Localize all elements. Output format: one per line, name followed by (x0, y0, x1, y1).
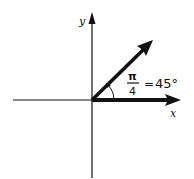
diagram-canvas: y x π 4 = 45° (0, 0, 194, 179)
angle-numerator: π (128, 70, 137, 83)
equals-sign: = (144, 77, 154, 91)
y-axis-label: y (78, 15, 86, 28)
angle-label: π 4 = 45° (127, 70, 178, 98)
rotated-vector (92, 40, 153, 100)
y-axis-arrowhead-icon (89, 12, 96, 24)
angle-diagram: y x π 4 = 45° (0, 0, 194, 179)
x-axis-vector (92, 94, 181, 106)
x-axis-label: x (170, 107, 177, 120)
angle-denominator: 4 (129, 85, 136, 98)
angle-degrees: 45° (155, 76, 178, 91)
y-axis (89, 12, 96, 178)
angle-arc (106, 83, 114, 99)
